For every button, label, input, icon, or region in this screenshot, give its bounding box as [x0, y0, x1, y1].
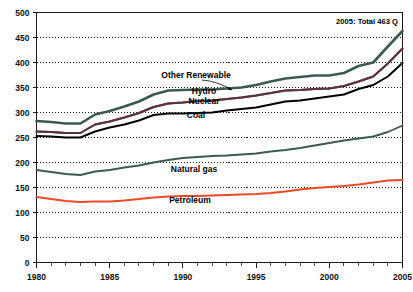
series-line-petroleum	[37, 180, 403, 202]
chart-annotations: 2005: Total 463 Q	[336, 17, 398, 26]
x-tick-label: 1995	[247, 272, 266, 282]
series-label-hydro: Hydro	[192, 86, 217, 96]
y-tick-label: 250	[15, 133, 29, 143]
x-tick-label: 1980	[27, 272, 46, 282]
x-tick-label: 1990	[173, 272, 192, 282]
x-axis-tick-labels: 198019851990199520002005	[27, 272, 412, 282]
y-tick-label: 200	[15, 158, 29, 168]
x-tick-label: 2000	[320, 272, 339, 282]
x-tick-label: 1985	[100, 272, 119, 282]
y-tick-label: 100	[15, 208, 29, 218]
series-line-hydro	[37, 49, 403, 134]
series-label-nuclear: Nuclear	[188, 96, 220, 106]
data-series-lines	[37, 31, 403, 202]
series-label-petroleum: Petroleum	[169, 195, 211, 205]
grid-lines	[37, 38, 403, 238]
x-tick-label: 2005	[393, 272, 412, 282]
y-axis-tick-labels: 500450400350300250200150100500	[15, 8, 29, 268]
series-label-natural-gas: Natural gas	[171, 164, 218, 174]
line-chart: 500450400350300250200150100500 198019851…	[0, 0, 413, 292]
y-tick-label: 450	[15, 33, 29, 43]
series-label-coal: Coal	[187, 110, 205, 120]
series-label-other-renewable: Other Renewable	[161, 70, 231, 80]
series-line-nuclear	[37, 49, 403, 134]
y-tick-label: 0	[25, 258, 30, 268]
y-tick-label: 50	[20, 233, 30, 243]
y-tick-label: 500	[15, 8, 29, 18]
y-tick-label: 350	[15, 83, 29, 93]
total-annotation: 2005: Total 463 Q	[336, 17, 398, 26]
y-tick-label: 150	[15, 183, 29, 193]
y-tick-label: 400	[15, 58, 29, 68]
y-tick-label: 300	[15, 108, 29, 118]
chart-container: 500450400350300250200150100500 198019851…	[0, 0, 413, 292]
